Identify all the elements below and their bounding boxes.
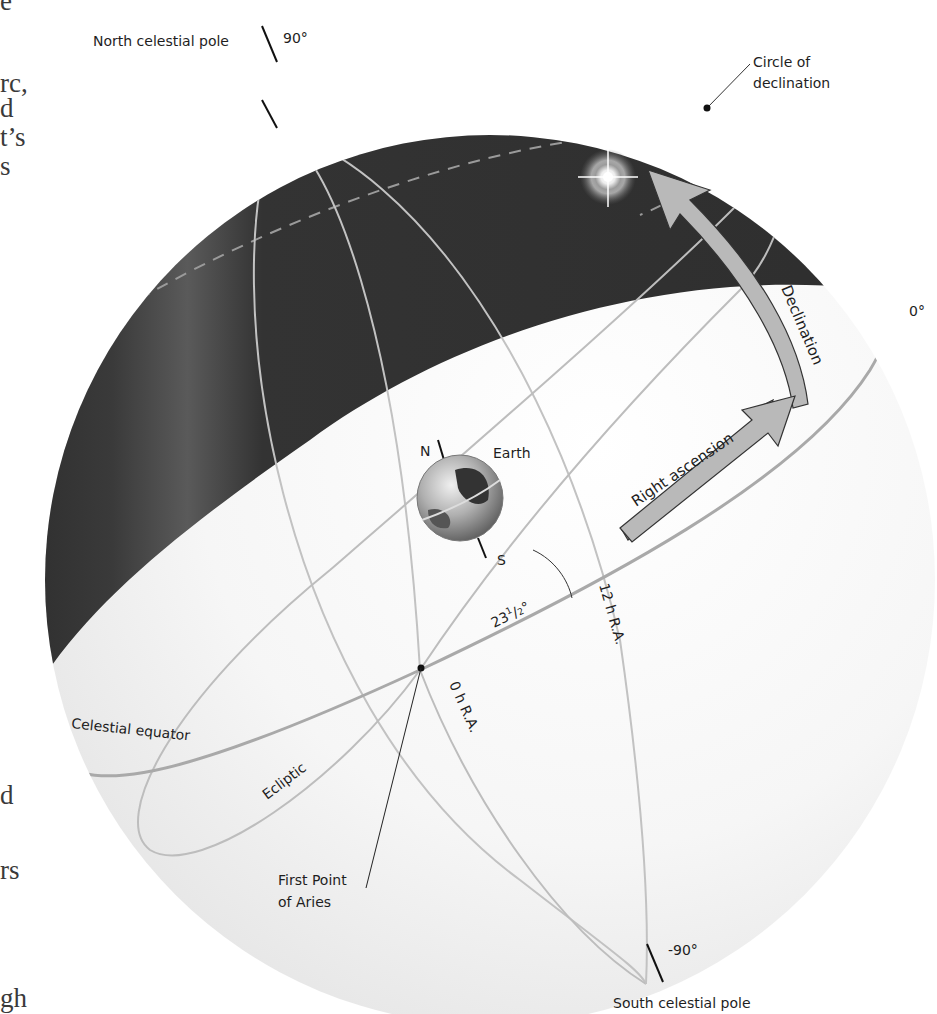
south-angle-label: -90° (668, 942, 698, 958)
north-pole-marker (262, 100, 277, 128)
south-pole-label: South celestial pole (613, 995, 751, 1011)
first-point-label-line1: First Point (278, 872, 347, 888)
north-angle-label: 90° (283, 30, 308, 46)
circle-of-declination-label-line1: Circle of (753, 54, 811, 70)
circle-of-declination-label-line2: declination (753, 75, 830, 91)
celestial-sphere-diagram: Declination Right ascension North celest… (0, 0, 937, 1014)
equator-angle-label: 0° (909, 303, 925, 319)
circle-of-declination-pointer (704, 64, 751, 112)
earth-south-label: S (497, 552, 506, 568)
earth-label: Earth (493, 445, 531, 461)
first-point-label-line2: of Aries (278, 894, 331, 910)
earth-north-label: N (420, 443, 430, 459)
north-pole-label: North celestial pole (93, 33, 229, 49)
